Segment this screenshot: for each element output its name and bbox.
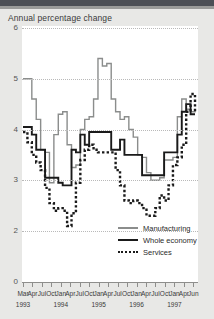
x-axis-tick bbox=[80, 283, 81, 287]
x-axis-tick bbox=[146, 283, 147, 287]
x-axis-tick bbox=[23, 283, 24, 287]
x-year-label: 1997 bbox=[167, 301, 181, 308]
x-axis-tick bbox=[127, 283, 128, 287]
legend-item-whole-economy: Whole economy bbox=[118, 234, 197, 246]
x-axis-tick bbox=[61, 283, 62, 287]
x-axis-tick bbox=[165, 283, 166, 287]
gridline bbox=[22, 28, 198, 29]
x-year-label: 1996 bbox=[129, 301, 143, 308]
x-axis-tick bbox=[89, 283, 90, 287]
x-axis-tick bbox=[70, 283, 71, 287]
x-axis-tick bbox=[99, 283, 100, 287]
x-year-label: 1993 bbox=[16, 301, 30, 308]
chart-legend: Manufacturing Whole economy Services bbox=[118, 222, 197, 258]
y-tick-label: 0 bbox=[2, 277, 18, 286]
legend-label-whole-economy: Whole economy bbox=[143, 236, 197, 245]
x-tick-label: Apr bbox=[65, 290, 75, 297]
y-tick-label: 2 bbox=[2, 226, 18, 235]
legend-item-services: Services bbox=[118, 246, 197, 258]
line-swatch-whole-economy-icon bbox=[118, 239, 138, 241]
x-tick-label: Apr bbox=[103, 290, 113, 297]
x-tick-label: Jul bbox=[38, 290, 46, 297]
x-axis-tick bbox=[32, 283, 33, 287]
x-year-label: 1995 bbox=[91, 301, 105, 308]
x-tick-label: Jul bbox=[151, 290, 159, 297]
x-axis-tick bbox=[51, 283, 52, 287]
x-axis-tick bbox=[184, 283, 185, 287]
y-tick-label: 3 bbox=[2, 175, 18, 184]
legend-label-manufacturing: Manufacturing bbox=[143, 224, 191, 233]
x-axis-tick bbox=[174, 283, 175, 287]
legend-label-services: Services bbox=[143, 248, 172, 257]
line-swatch-manufacturing-icon bbox=[118, 227, 138, 229]
top-decorative-band-secondary bbox=[0, 6, 214, 9]
x-tick-label: Apr bbox=[27, 290, 37, 297]
gridline bbox=[22, 79, 198, 80]
series-line-manufacturing bbox=[23, 58, 195, 182]
chart-title: Annual percentage change bbox=[8, 13, 112, 23]
y-tick-label: 6 bbox=[2, 23, 18, 32]
gridline bbox=[22, 130, 198, 131]
x-axis-tick bbox=[108, 283, 109, 287]
line-swatch-services-icon bbox=[118, 251, 138, 253]
x-axis-tick bbox=[118, 283, 119, 287]
x-tick-label: Jul bbox=[113, 290, 121, 297]
gridline bbox=[22, 180, 198, 181]
x-tick-label: Jul bbox=[76, 290, 84, 297]
x-tick-label: Apr bbox=[141, 290, 151, 297]
x-tick-label: Jun bbox=[188, 290, 198, 297]
x-axis-line bbox=[22, 282, 198, 283]
x-axis-tick bbox=[137, 283, 138, 287]
x-year-label: 1994 bbox=[54, 301, 68, 308]
x-axis-tick bbox=[42, 283, 43, 287]
legend-item-manufacturing: Manufacturing bbox=[118, 222, 197, 234]
y-tick-label: 5 bbox=[2, 74, 18, 83]
y-tick-label: 4 bbox=[2, 125, 18, 134]
x-axis-tick bbox=[155, 283, 156, 287]
x-axis-tick bbox=[193, 283, 194, 287]
